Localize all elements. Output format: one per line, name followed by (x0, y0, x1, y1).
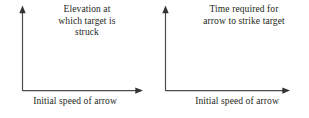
chart-panel-right: Time required for arrow to strike target… (155, 0, 309, 118)
x-axis-arrowhead-icon (282, 87, 290, 93)
chart-title: Time required for arrow to strike target (181, 4, 307, 27)
x-axis-label: Initial speed of arrow (173, 96, 301, 107)
x-axis-label: Initial speed of arrow (12, 96, 138, 107)
figure-canvas: Elevation at which target is struck Init… (0, 0, 309, 118)
y-axis-arrowhead-icon (19, 6, 25, 14)
x-axis-arrowhead-icon (135, 87, 143, 93)
y-axis-arrowhead-icon (162, 6, 168, 14)
chart-title: Elevation at which target is struck (28, 4, 146, 39)
chart-panel-left: Elevation at which target is struck Init… (0, 0, 154, 118)
